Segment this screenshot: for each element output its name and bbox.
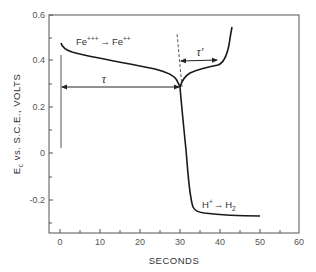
y-tick-label: 0.4 <box>32 55 45 65</box>
tau-prime-arrow <box>181 60 217 61</box>
plot-frame <box>49 15 299 233</box>
x-tick-label: 0 <box>57 237 62 247</box>
x-tick-label: 10 <box>95 237 105 247</box>
dashed-extrapolation-line <box>177 33 182 87</box>
y-tick-label: 0.6 <box>32 10 45 20</box>
y-axis-tick-labels: 0.6 0.4 0.2 0 -0.2 <box>29 10 45 205</box>
y-tick-label: 0.2 <box>32 102 45 112</box>
y-axis-ticks <box>49 15 53 223</box>
tau-prime-label: τ' <box>197 45 204 59</box>
x-tick-label: 40 <box>215 237 225 247</box>
x-tick-label: 30 <box>175 237 185 247</box>
x-axis-title: SECONDS <box>149 255 199 266</box>
y-axis-title: Ec vs. S.C.E., VOLTS <box>11 74 24 174</box>
reverse-branch-curve <box>180 27 232 87</box>
h-reaction-annotation: H+→H2 <box>202 198 236 212</box>
x-axis-ticks <box>60 229 280 233</box>
x-tick-label: 60 <box>294 237 304 247</box>
chronopotentiogram-chart: 0.6 0.4 0.2 0 -0.2 0 10 20 30 40 50 60 S… <box>0 0 316 272</box>
y-tick-label: 0 <box>40 148 45 158</box>
x-tick-label: 20 <box>135 237 145 247</box>
y-tick-label: -0.2 <box>29 195 45 205</box>
fe-reaction-annotation: Fe+++→Fe++ <box>76 35 131 47</box>
tau-label: τ <box>102 72 107 86</box>
forward-curve <box>61 43 260 216</box>
x-tick-label: 50 <box>255 237 265 247</box>
x-axis-tick-labels: 0 10 20 30 40 50 60 <box>57 237 304 247</box>
